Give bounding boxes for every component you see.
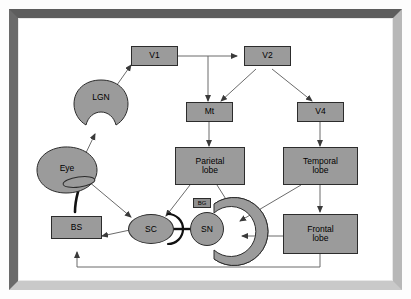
edge-v2-v4 [272,69,312,101]
node-mt-label: Mt [205,107,214,117]
node-mt[interactable]: Mt [186,102,233,122]
node-v2[interactable]: V2 [244,46,291,66]
node-v1[interactable]: V1 [131,46,178,66]
node-sn-label: SN [201,224,213,234]
node-bg-label: BG [198,200,207,207]
node-lgn[interactable]: LGN [73,79,129,130]
edge-parietal-sc [166,185,190,216]
diagram-canvas: V1 V2 Mt V4 Parietal lobe Temporal lobe … [18,18,393,281]
figure-outer-background: V1 V2 Mt V4 Parietal lobe Temporal lobe … [0,0,411,299]
node-parietal-lobe[interactable]: Parietal lobe [175,147,245,185]
node-bs-label: BS [71,223,82,233]
node-v4-label: V4 [315,107,325,117]
node-sn[interactable]: SN [190,212,224,246]
node-bg-label-box[interactable]: BG [193,198,211,208]
node-frontal-lobe-label-line2: lobe [312,234,328,244]
node-v4[interactable]: V4 [297,102,344,122]
node-eye-muscle [62,176,96,188]
edge-v2-mt [221,69,256,101]
node-eye-label: Eye [36,163,98,173]
node-v2-label: V2 [262,51,272,61]
node-lgn-shape [73,79,129,130]
node-sc[interactable]: SC [128,214,174,244]
node-parietal-lobe-label-line2: lobe [202,166,218,176]
node-sc-label: SC [145,224,157,234]
node-lgn-label: LGN [73,92,129,102]
edge-frontal-bs-feedback [77,252,320,267]
node-temporal-lobe-label-line2: lobe [312,166,328,176]
node-eye-muscle-shape [62,176,96,188]
node-temporal-lobe[interactable]: Temporal lobe [283,147,358,185]
node-frontal-lobe[interactable]: Frontal lobe [283,214,358,254]
node-v1-label: V1 [149,51,159,61]
node-bs[interactable]: BS [51,216,102,239]
edge-sc-bs [102,230,130,236]
